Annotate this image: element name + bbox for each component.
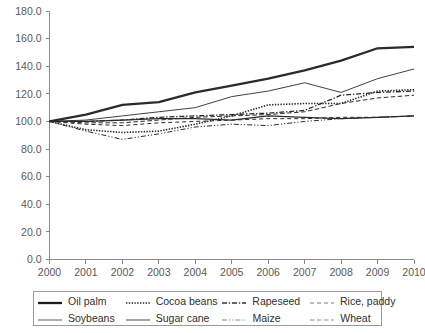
legend-line-swatch-cocoa-beans (125, 295, 151, 307)
legend-item-sugar-cane[interactable]: Sugar cane (125, 312, 222, 324)
y-tick-label: 0.0 (27, 253, 42, 265)
legend-item-soybeans[interactable]: Soybeans (37, 312, 125, 324)
legend-label: Rice, paddy (340, 295, 395, 307)
x-tick-label: 2009 (366, 266, 390, 278)
y-tick-label: 180.0 (15, 5, 41, 17)
plot-area: 0.020.040.060.080.0100.0120.0140.0160.01… (0, 0, 425, 283)
y-tick-label: 100.0 (15, 115, 41, 127)
x-tick-label: 2001 (74, 266, 98, 278)
y-tick-label: 20.0 (21, 226, 42, 238)
x-tick-label: 2005 (220, 266, 244, 278)
legend-line-swatch-soybeans (37, 312, 63, 324)
series-line-oil-palm (50, 47, 415, 122)
y-tick-label: 40.0 (21, 198, 42, 210)
line-chart: 0.020.040.060.080.0100.0120.0140.0160.01… (0, 0, 425, 333)
legend-item-rice-paddy[interactable]: Rice, paddy (309, 295, 381, 307)
legend-label: Sugar cane (156, 312, 210, 324)
x-tick-label: 2008 (329, 266, 353, 278)
legend-line-swatch-oil-palm (37, 295, 63, 307)
x-tick-label: 2002 (111, 266, 135, 278)
data-series-group (50, 47, 415, 140)
legend-row: Oil palmCocoa beansRapeseedRice, paddy (34, 292, 381, 309)
legend-label: Wheat (340, 312, 370, 324)
y-tick-label: 80.0 (21, 143, 42, 155)
series-line-sugar-cane (50, 116, 415, 122)
legend-line-swatch-wheat (309, 312, 335, 324)
legend-item-rapeseed[interactable]: Rapeseed (221, 295, 309, 307)
y-tick-label: 120.0 (15, 88, 41, 100)
x-tick-label: 2003 (147, 266, 171, 278)
legend-item-oil-palm[interactable]: Oil palm (37, 295, 125, 307)
x-axis-ticks: 2000200120022003200420052006200720082009… (38, 260, 425, 278)
legend-label: Rapeseed (252, 295, 300, 307)
legend-line-swatch-sugar-cane (125, 312, 151, 324)
legend-label: Maize (252, 312, 280, 324)
legend-row: SoybeansSugar caneMaizeWheat (34, 309, 381, 326)
legend-label: Oil palm (68, 295, 107, 307)
x-tick-label: 2004 (184, 266, 208, 278)
x-tick-label: 2010 (402, 266, 425, 278)
legend-item-cocoa-beans[interactable]: Cocoa beans (125, 295, 222, 307)
x-tick-label: 2007 (293, 266, 317, 278)
series-line-soybeans (50, 69, 415, 121)
y-tick-label: 140.0 (15, 60, 41, 72)
x-tick-label: 2000 (38, 266, 62, 278)
legend-line-swatch-maize (221, 312, 247, 324)
y-tick-label: 160.0 (15, 32, 41, 44)
legend-item-wheat[interactable]: Wheat (309, 312, 381, 324)
legend-line-swatch-rapeseed (221, 295, 247, 307)
legend-item-maize[interactable]: Maize (221, 312, 309, 324)
y-tick-label: 60.0 (21, 170, 42, 182)
chart-legend: Oil palmCocoa beansRapeseedRice, paddySo… (33, 291, 382, 326)
legend-label: Cocoa beans (156, 295, 218, 307)
legend-line-swatch-rice-paddy (309, 295, 335, 307)
series-line-cocoa-beans (50, 90, 415, 133)
legend-label: Soybeans (68, 312, 115, 324)
y-axis-ticks: 0.020.040.060.080.0100.0120.0140.0160.01… (15, 5, 49, 266)
x-tick-label: 2006 (257, 266, 281, 278)
series-line-maize (50, 116, 415, 139)
